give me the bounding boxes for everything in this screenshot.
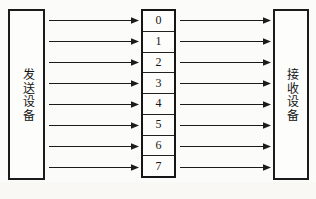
line-cell-label: 4 — [156, 96, 162, 111]
flow-arrow-left-4 — [49, 100, 139, 109]
line-cell-label: 0 — [156, 13, 162, 28]
line-cell-label: 5 — [156, 117, 162, 132]
line-cell-6: 6 — [143, 136, 174, 157]
line-cell-label: 7 — [156, 159, 162, 174]
line-cell-label: 1 — [156, 34, 162, 49]
line-cell-label: 2 — [156, 55, 162, 70]
line-cell-5: 5 — [143, 115, 174, 136]
receiving-device-box: 接收设备 — [273, 9, 309, 180]
flow-arrow-right-2 — [180, 58, 271, 67]
flow-arrow-left-1 — [49, 37, 139, 46]
line-cell-label: 3 — [156, 76, 162, 91]
flow-arrow-right-1 — [180, 37, 271, 46]
flow-arrow-right-3 — [180, 79, 271, 88]
scan-noise-band — [0, 182, 316, 199]
flow-arrow-left-2 — [49, 58, 139, 67]
parallel-transmission-diagram: 发送设备 0 1 2 3 4 5 6 7 接收设备 — [0, 0, 316, 199]
line-cell-7: 7 — [143, 156, 174, 176]
sending-device-label: 发送设备 — [19, 68, 35, 122]
flow-arrow-left-5 — [49, 121, 139, 130]
flow-arrow-left-6 — [49, 142, 139, 151]
flow-arrow-left-7 — [49, 163, 139, 172]
sending-device-box: 发送设备 — [8, 9, 45, 180]
flow-arrow-right-4 — [180, 100, 271, 109]
flow-arrow-right-0 — [180, 16, 271, 25]
line-cell-4: 4 — [143, 94, 174, 115]
transmission-line-stack: 0 1 2 3 4 5 6 7 — [141, 9, 176, 178]
flow-arrow-right-6 — [180, 142, 271, 151]
line-cell-1: 1 — [143, 32, 174, 53]
receiving-device-label: 接收设备 — [283, 68, 299, 122]
line-cell-2: 2 — [143, 53, 174, 74]
flow-arrow-right-7 — [180, 163, 271, 172]
line-cell-0: 0 — [143, 11, 174, 32]
line-cell-label: 6 — [156, 138, 162, 153]
flow-arrow-left-0 — [49, 16, 139, 25]
flow-arrow-left-3 — [49, 79, 139, 88]
flow-arrow-right-5 — [180, 121, 271, 130]
line-cell-3: 3 — [143, 73, 174, 94]
